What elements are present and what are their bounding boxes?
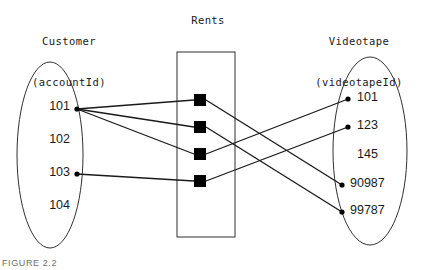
rent-node-3 — [194, 148, 206, 160]
connection-line — [206, 127, 348, 181]
value-dot — [74, 106, 79, 111]
value-label: 102 — [49, 132, 70, 146]
value-dot — [345, 96, 350, 101]
figure-caption: FIGURE 2.2 — [2, 258, 57, 268]
connection-line — [206, 99, 348, 154]
connection-line — [206, 100, 342, 185]
rent-node-4 — [194, 175, 206, 187]
er-relationship-figure: Customer (accountId) Rents Videotape (vi… — [0, 0, 424, 270]
connection-line — [206, 127, 342, 212]
value-label: 123 — [357, 118, 378, 132]
connection-line — [77, 109, 194, 127]
rents-nodes-group — [194, 94, 206, 187]
connection-lines-group — [77, 99, 348, 212]
rents-box-group — [177, 52, 235, 237]
value-label: 104 — [49, 198, 70, 212]
value-label: 90987 — [350, 176, 385, 190]
connection-line — [77, 100, 194, 109]
value-label: 101 — [49, 99, 70, 113]
connection-line — [77, 174, 194, 181]
connection-line — [77, 109, 194, 154]
rent-node-2 — [194, 121, 206, 133]
value-dot — [339, 182, 344, 187]
customer-ellipse-group — [17, 62, 83, 248]
value-dot — [339, 209, 344, 214]
rents-relationship-box — [177, 52, 235, 237]
value-dot — [345, 124, 350, 129]
value-label: 145 — [357, 147, 378, 161]
customer-entity-ellipse — [17, 62, 83, 248]
value-dot — [74, 171, 79, 176]
rent-node-1 — [194, 94, 206, 106]
value-label: 103 — [49, 165, 70, 179]
value-label: 99787 — [350, 203, 385, 217]
value-label: 101 — [357, 90, 378, 104]
